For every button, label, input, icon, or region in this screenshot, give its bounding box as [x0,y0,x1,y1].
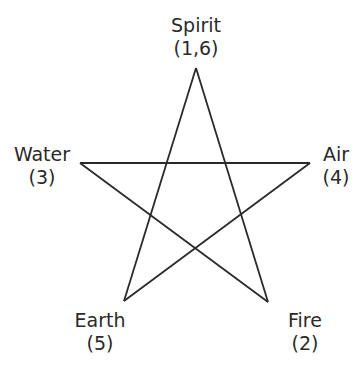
edge-earth-spirit [124,68,196,301]
label-earth: Earth (5) [64,309,136,355]
pentagram-diagram: Spirit (1,6) Water (3) Air (4) Earth (5)… [0,0,362,380]
label-fire-name: Fire [266,309,344,332]
label-water-name: Water [2,143,82,166]
label-water: Water (3) [2,143,82,189]
edge-fire-water [80,163,268,302]
label-spirit: Spirit (1,6) [155,14,237,60]
label-spirit-number: (1,6) [155,37,237,60]
label-spirit-name: Spirit [155,14,237,37]
edge-air-earth [124,163,310,301]
label-earth-name: Earth [64,309,136,332]
edge-spirit-fire [196,68,268,302]
label-fire-number: (2) [266,332,344,355]
label-air-name: Air [312,143,360,166]
label-air-number: (4) [312,166,360,189]
label-earth-number: (5) [64,332,136,355]
label-air: Air (4) [312,143,360,189]
label-fire: Fire (2) [266,309,344,355]
label-water-number: (3) [2,166,82,189]
